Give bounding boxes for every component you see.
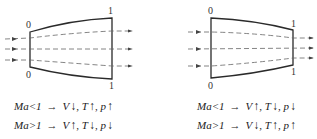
diverging-subsonic-relation: Ma<1→V↓, T↑, p↑	[14, 100, 113, 112]
station-1-bottom-label: 1	[109, 81, 114, 91]
station-0-top-label: 0	[208, 6, 213, 16]
diverging-supersonic-relation: Ma>1→V↑, T↓, p↓	[14, 119, 113, 131]
station-0-top-label: 0	[26, 20, 31, 30]
station-1-top-label: 1	[108, 6, 113, 16]
station-0-bottom-label: 0	[208, 81, 213, 91]
station-1-top-label: 1	[291, 19, 296, 29]
diverging-duct	[5, 18, 132, 79]
converging-subsonic-relation: Ma<1→V↑, T↓, p↓	[197, 100, 296, 112]
station-1-bottom-label: 1	[291, 67, 296, 77]
converging-supersonic-relation: Ma>1→V↓, T↑, p↑	[197, 119, 296, 131]
station-0-bottom-label: 0	[26, 70, 31, 80]
